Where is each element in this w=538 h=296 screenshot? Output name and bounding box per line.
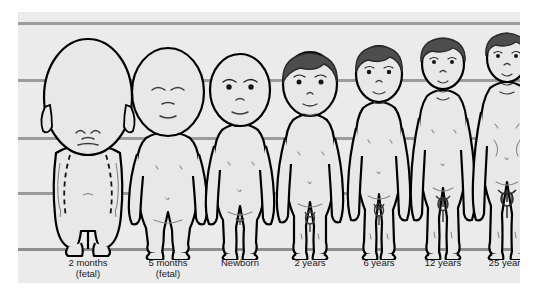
label-cell-6: 25 years [460, 257, 520, 268]
figure-svg-twenty-five-years [460, 32, 520, 260]
label-text-1: 5 months [148, 257, 187, 268]
eye-left [226, 84, 231, 89]
figure-twenty-five-years: 25 years [460, 32, 520, 260]
label-subtext-1: (fetal) [116, 268, 220, 279]
label-text-5: 12 years [425, 257, 461, 268]
gridline-1 [18, 22, 520, 25]
label-text-0: 2 months [68, 257, 107, 268]
labels-row: 2 months (fetal) 5 months (fetal) Newbor… [18, 257, 520, 281]
label-text-6: 25 years [489, 257, 520, 268]
label-text-2: Newborn [221, 257, 259, 268]
label-text-3: 2 years [294, 257, 325, 268]
eye-right [248, 84, 253, 89]
figure-panel: 2 months (fetal) [18, 12, 520, 283]
label-text-4: 6 years [363, 257, 394, 268]
